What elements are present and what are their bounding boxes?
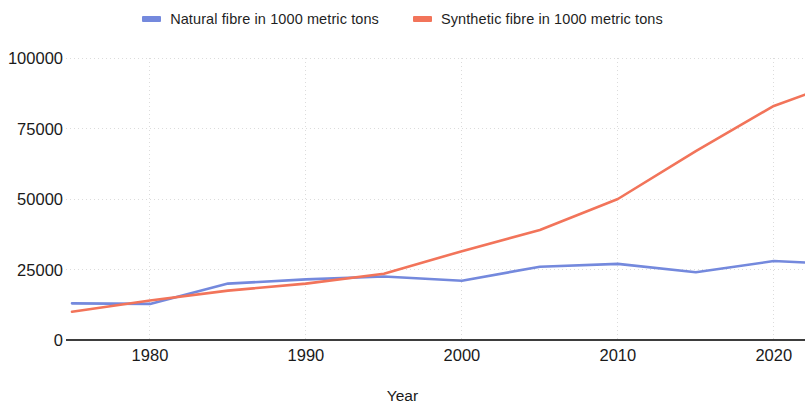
series-lines xyxy=(72,95,805,312)
x-tick-label: 1980 xyxy=(132,347,169,364)
x-tick-label: 1990 xyxy=(288,347,325,364)
y-tick-label: 0 xyxy=(54,332,63,349)
y-tick-label: 75000 xyxy=(17,120,63,137)
y-tick-label: 100000 xyxy=(8,50,63,67)
gridlines-vertical xyxy=(150,58,774,340)
x-tick-label: 2010 xyxy=(599,347,636,364)
y-tick-label: 50000 xyxy=(17,191,63,208)
x-axis-title: Year xyxy=(0,388,805,404)
gridlines-horizontal xyxy=(66,58,805,270)
line-chart: Natural fibre in 1000 metric tons Synthe… xyxy=(0,0,805,414)
x-tick-label: 2020 xyxy=(755,347,792,364)
x-tick-label: 2000 xyxy=(444,347,481,364)
y-tick-label: 25000 xyxy=(17,261,63,278)
x-axis-tick-labels: 19801990200020102020 xyxy=(0,347,805,371)
